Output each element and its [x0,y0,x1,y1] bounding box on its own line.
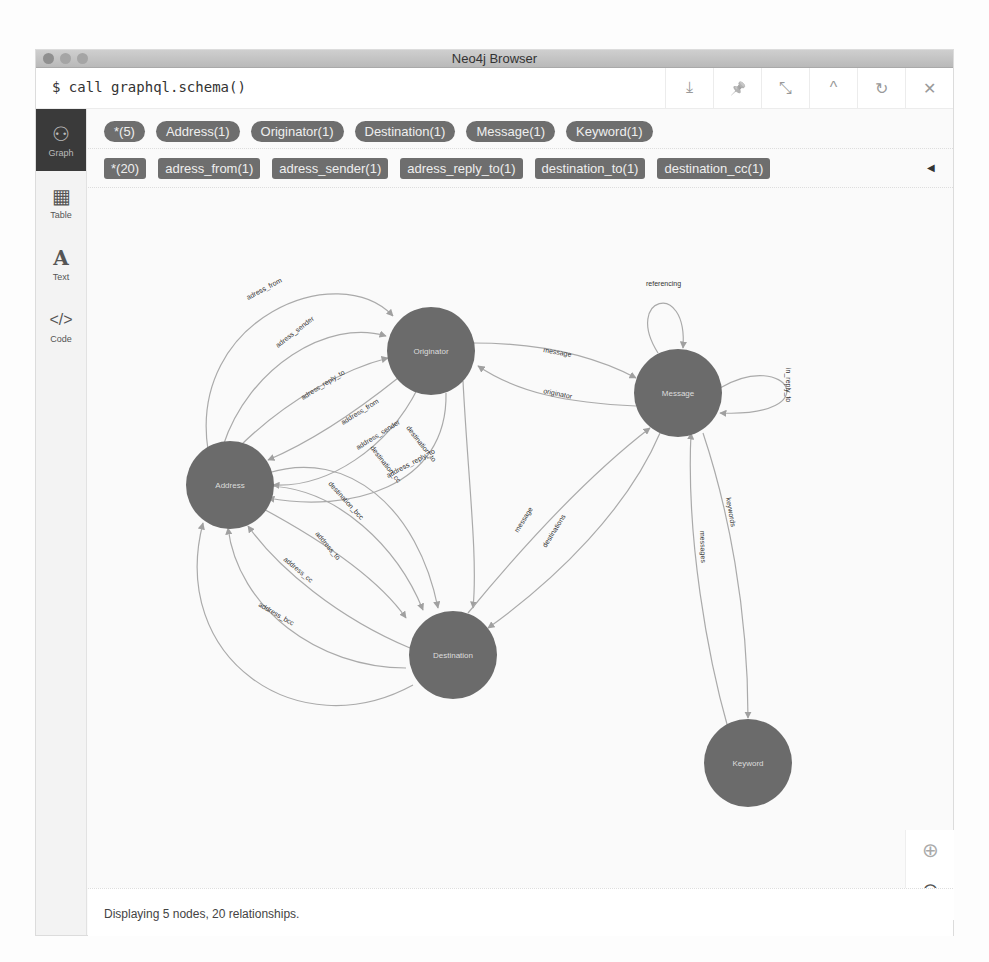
rel-type-destination-to[interactable]: destination_to(1) [535,158,646,179]
neo4j-browser-window: Neo4j Browser $ call graphql.schema() ⤓ … [35,49,954,936]
edge-label: address_from [340,397,381,427]
edge-adress-from[interactable] [206,294,393,450]
command-bar: $ call graphql.schema() ⤓ 📌 ⤡ ^ ↻ ✕ [36,68,953,109]
edge-address-cc[interactable] [228,528,406,668]
pin-button[interactable]: 📌 [713,68,761,108]
legend-expand-toggle[interactable]: ◀ [927,162,935,173]
edge-label: referencing [646,280,681,288]
graph-icon: ⚇ [52,123,70,145]
code-icon: </> [49,309,72,331]
node-label-destination[interactable]: Destination(1) [355,121,456,142]
edge-label: keywords [724,497,737,528]
chevron-up-button[interactable]: ^ [809,68,857,108]
edge-adress-sender[interactable] [223,332,386,446]
sidebar-item-graph[interactable]: ⚇ Graph [36,109,86,171]
node-label: Address [215,481,244,490]
rel-type-adress-reply-to[interactable]: adress_reply_to(1) [400,158,522,179]
edge-label: adress_from [245,276,283,301]
rerun-icon: ↻ [875,79,888,98]
node-label: Destination [433,651,473,660]
chevron-up-icon: ^ [830,79,838,97]
command-text[interactable]: $ call graphql.schema() [52,79,246,95]
status-text: Displaying 5 nodes, 20 relationships. [104,907,299,921]
node-label-keyword[interactable]: Keyword(1) [566,121,652,142]
divider [88,148,953,149]
download-button[interactable]: ⤓ [665,68,713,108]
view-sidebar: ⚇ Graph ▦ Table A Text </> Code [36,109,87,935]
node-label-legend: *(5) Address(1) Originator(1) Destinatio… [104,121,653,142]
zoom-in-button[interactable]: ⊕ [906,830,954,870]
frame-actions: ⤓ 📌 ⤡ ^ ↻ ✕ [665,68,953,108]
edge-keywords[interactable] [703,433,748,718]
collapse-button[interactable]: ⤡ [761,68,809,108]
sidebar-item-label: Text [53,272,70,282]
edge-label: destination_cc [368,444,402,485]
relationship-labels: adress_from adress_sender adress_reply_t… [245,276,792,627]
graph-canvas[interactable]: adress_from adress_sender adress_reply_t… [88,188,953,888]
collapse-arrows-icon: ⤡ [779,79,792,97]
edge-label: address_bcc [257,601,296,628]
node-label-address[interactable]: Address(1) [156,121,240,142]
node-label: Keyword [732,759,763,768]
node-address[interactable]: Address [186,441,274,529]
sidebar-item-text[interactable]: A Text [36,233,86,295]
edge-label: messages [698,531,707,564]
node-label: Message [662,389,695,398]
edge-label: message [513,506,535,534]
edge-label: address_sender [355,418,402,452]
edge-referencing[interactable] [648,303,684,353]
rel-type-adress-sender[interactable]: adress_sender(1) [272,158,388,179]
status-bar: Displaying 5 nodes, 20 relationships. [88,888,953,936]
table-icon: ▦ [52,185,71,207]
edge-label: address_to [313,530,341,562]
rel-type-destination-cc[interactable]: destination_cc(1) [657,158,770,179]
edge-label: adress_reply_to [300,368,347,401]
relationship-type-legend: *(20) adress_from(1) adress_sender(1) ad… [104,158,770,179]
edge-label: in_reply_to [784,368,792,402]
edge-address-bcc[interactable] [197,523,413,706]
edge-label: address_cc [282,555,315,584]
pin-icon: 📌 [730,81,746,96]
rel-type-all[interactable]: *(20) [104,158,146,179]
node-label: Originator [413,347,448,356]
close-frame-button[interactable]: ✕ [905,68,953,108]
title-bar: Neo4j Browser [36,50,953,68]
node-label-message[interactable]: Message(1) [466,121,555,142]
sidebar-item-label: Graph [48,148,73,158]
edge-originator-destination[interactable] [463,381,474,608]
edge-destination-bcc[interactable] [258,506,406,618]
node-message[interactable]: Message [634,349,722,437]
window-title: Neo4j Browser [36,51,953,66]
zoom-in-icon: ⊕ [922,838,939,862]
rerun-button[interactable]: ↻ [857,68,905,108]
node-destination[interactable]: Destination [409,611,497,699]
edge-label: destinations [541,513,567,549]
node-originator[interactable]: Originator [387,307,475,395]
sidebar-item-code[interactable]: </> Code [36,295,86,357]
edge-label: originator [543,387,574,401]
edge-label: message [543,346,572,359]
rel-type-adress-from[interactable]: adress_from(1) [158,158,260,179]
edge-originator[interactable] [478,366,636,406]
node-label-all[interactable]: *(5) [104,121,145,142]
edge-in-reply-to[interactable] [720,376,787,414]
node-label-originator[interactable]: Originator(1) [251,121,344,142]
sidebar-item-label: Table [50,210,72,220]
edge-messages[interactable] [690,433,728,728]
text-icon: A [53,247,69,269]
node-keyword[interactable]: Keyword [704,719,792,807]
sidebar-item-label: Code [50,334,72,344]
close-icon: ✕ [923,79,936,98]
sidebar-item-table[interactable]: ▦ Table [36,171,86,233]
download-icon: ⤓ [686,79,693,97]
